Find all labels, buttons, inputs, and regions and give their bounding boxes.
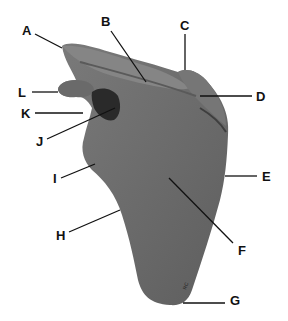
label-k: K bbox=[21, 107, 30, 120]
label-d: D bbox=[256, 90, 265, 103]
label-b: B bbox=[101, 15, 110, 28]
label-l: L bbox=[18, 86, 26, 99]
label-g: G bbox=[230, 294, 240, 307]
label-a: A bbox=[22, 24, 31, 37]
label-i: I bbox=[53, 172, 57, 185]
label-j: J bbox=[36, 135, 43, 148]
label-e: E bbox=[262, 170, 271, 183]
label-c: C bbox=[180, 19, 189, 32]
label-f: F bbox=[238, 244, 246, 257]
leader-line-h bbox=[69, 210, 120, 232]
scapula-figure: RC bbox=[0, 0, 288, 321]
leader-line-a bbox=[35, 34, 62, 48]
label-h: H bbox=[56, 229, 65, 242]
leader-line-i bbox=[61, 164, 95, 178]
